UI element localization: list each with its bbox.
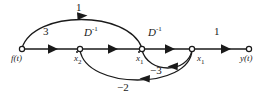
- arrowhead-x2dot-to-x1dot: [108, 44, 118, 54]
- integrator-exponent-2: -1: [156, 25, 162, 33]
- node-y[interactable]: [246, 46, 251, 51]
- graph-canvas: [0, 0, 277, 98]
- node-label-x1dot-subscript: 1: [140, 58, 144, 66]
- arrowhead-x1-to-x2dot: [140, 75, 151, 82]
- node-f[interactable]: [19, 46, 24, 51]
- derivative-dot-x2: [76, 51, 78, 53]
- gain-label-x1-to-x1dot: −3: [150, 65, 162, 76]
- integrator-exponent-1: -1: [92, 25, 98, 33]
- arrowhead-x1-to-y: [221, 44, 231, 54]
- gain-label-f-to-x1dot: 1: [76, 2, 82, 13]
- node-label-x1-subscript: 1: [201, 58, 205, 66]
- signal-flow-graph-figure: f(t) x2 x1 x1 y(t) 3 D-1 D-1 1 1 −3 −2: [0, 0, 277, 98]
- gain-label-x2dot-to-x1dot: D-1: [84, 26, 98, 38]
- node-label-f: f(t): [11, 54, 22, 63]
- arrowhead-x1-to-x1dot: [168, 63, 179, 71]
- node-label-x1: x1: [197, 54, 205, 66]
- node-label-x2dot-subscript: 2: [78, 58, 82, 66]
- arrowhead-f-to-x1dot: [77, 12, 88, 20]
- node-x1dot[interactable]: [139, 46, 144, 51]
- node-label-x2dot: x2: [74, 54, 82, 66]
- node-x2dot[interactable]: [77, 46, 82, 51]
- gain-label-x1dot-to-x1: D-1: [148, 26, 162, 38]
- feedforward-arc-group: [22, 12, 142, 48]
- edge-f-to-x1dot-arc: [22, 20, 142, 49]
- arrowhead-x1dot-to-x1: [165, 44, 175, 54]
- integrator-base-2: D: [148, 26, 156, 38]
- node-label-x1dot: x1: [136, 54, 144, 66]
- node-label-y: y(t): [240, 54, 253, 63]
- node-x1[interactable]: [189, 46, 194, 51]
- gain-label-f-to-x2dot: 3: [43, 26, 49, 37]
- derivative-dot-x1: [138, 51, 140, 53]
- gain-label-x1-to-y: 1: [214, 26, 220, 37]
- integrator-base-1: D: [84, 26, 92, 38]
- gain-label-x1-to-x2dot: −2: [117, 82, 129, 93]
- arrowhead-f-to-x2dot: [48, 44, 58, 54]
